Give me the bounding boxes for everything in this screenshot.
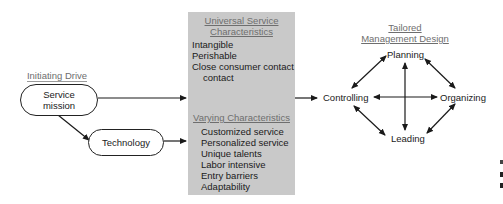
varying-item: Entry barriers — [201, 170, 289, 181]
varying-item: Adaptability — [201, 181, 289, 192]
universal-item: Close consumer contact — [192, 61, 294, 72]
universal-header-line1: Universal Service — [188, 15, 295, 26]
universal-item: Perishable — [192, 50, 294, 61]
varying-list: Customized service Personalized service … — [201, 126, 289, 192]
varying-item: Customized service — [201, 126, 289, 137]
function-planning: Planning — [387, 49, 424, 60]
management-header-line1: Tailored — [355, 22, 455, 33]
universal-list: Intangible Perishable Close consumer con… — [192, 39, 294, 83]
management-header-line2: Management Design — [355, 33, 455, 44]
initiating-drive-header: Initiating Drive — [22, 70, 92, 81]
function-controlling: Controlling — [323, 92, 368, 103]
universal-item: Intangible — [192, 39, 294, 50]
node-technology: Technology — [88, 129, 164, 156]
universal-item: contact — [192, 72, 294, 83]
universal-header-line2: Characteristics — [188, 26, 295, 37]
function-leading: Leading — [391, 133, 425, 144]
function-organizing: Organizing — [440, 92, 486, 103]
node-service-mission: Service mission — [20, 84, 98, 116]
varying-item: Unique talents — [201, 148, 289, 159]
varying-header: Varying Characteristics — [188, 112, 295, 123]
varying-item: Labor intensive — [201, 159, 289, 170]
varying-item: Personalized service — [201, 137, 289, 148]
